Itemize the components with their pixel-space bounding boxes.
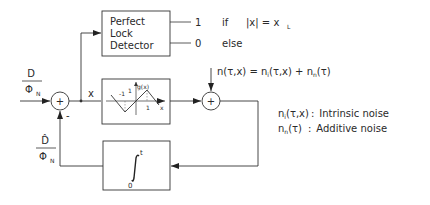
- integrator-lower-limit: 0: [128, 182, 132, 190]
- left-sum-minus: -: [66, 110, 70, 121]
- lock-detector-line-1: Perfect: [110, 16, 145, 27]
- condition-sub: L: [287, 23, 291, 30]
- noise-expr-main: n(τ,x) = n: [217, 66, 267, 77]
- lock-output-low: 0: [195, 38, 201, 49]
- lock-detector-line-3: Detector: [110, 40, 154, 51]
- loop-return-line: [171, 101, 258, 166]
- noise-legend: ni(τ,x):Intrinsic noise nn(τ):Additive n…: [278, 108, 389, 135]
- error-signal-label: x: [88, 88, 94, 99]
- input-numerator: D: [27, 68, 35, 79]
- input-denominator: Φ: [25, 84, 33, 95]
- left-sum-junction: + -: [51, 92, 70, 121]
- nonlinearity-block: g(x) x -1 1 1: [102, 79, 170, 124]
- legend-item-additive: nn(τ):Additive noise: [278, 123, 387, 135]
- feedback-denominator-sub: N: [50, 157, 55, 164]
- lock-detector-block: Perfect Lock Detector: [102, 11, 170, 56]
- tick-pos-one-y: 1: [128, 87, 132, 94]
- feedback-numerator: D̂: [41, 134, 49, 146]
- legend-item-intrinsic: ni(τ,x):Intrinsic noise: [278, 108, 389, 120]
- noise-expr-end: (τ): [317, 66, 331, 77]
- input-fraction: D Φ N: [22, 68, 42, 97]
- integrator-block: t 0: [103, 141, 170, 190]
- condition-if: if: [222, 17, 229, 28]
- lock-output-high: 1: [195, 17, 201, 28]
- condition-expr: |x| = x: [246, 17, 279, 29]
- input-denominator-sub: N: [36, 90, 41, 97]
- right-sum-plus: +: [207, 96, 215, 107]
- condition-else: else: [222, 38, 242, 49]
- feedback-fraction: D̂ Φ N: [36, 134, 56, 164]
- svg-text:n(τ,x) = ni(τ,x) + nn(τ): n(τ,x) = ni(τ,x) + nn(τ): [217, 66, 331, 78]
- left-sum-plus: +: [56, 96, 64, 107]
- tick-neg-one: -1: [119, 90, 125, 97]
- feedback-denominator: Φ: [39, 151, 47, 162]
- tick-pos-one-x: 1: [146, 104, 150, 111]
- block-diagram: D Φ N + - x Perfect Lock Detector 1 0 if…: [0, 0, 430, 205]
- g-axis-label: g(x): [137, 83, 149, 91]
- lock-detector-line-2: Lock: [110, 28, 133, 39]
- x-axis-label: x: [160, 104, 164, 111]
- noise-expression: n(τ,x) = ni(τ,x) + nn(τ): [217, 66, 331, 78]
- integrator-upper-limit: t: [140, 149, 143, 157]
- noise-expr-mid: (τ,x) + n: [269, 66, 313, 77]
- right-sum-junction: +: [202, 92, 220, 110]
